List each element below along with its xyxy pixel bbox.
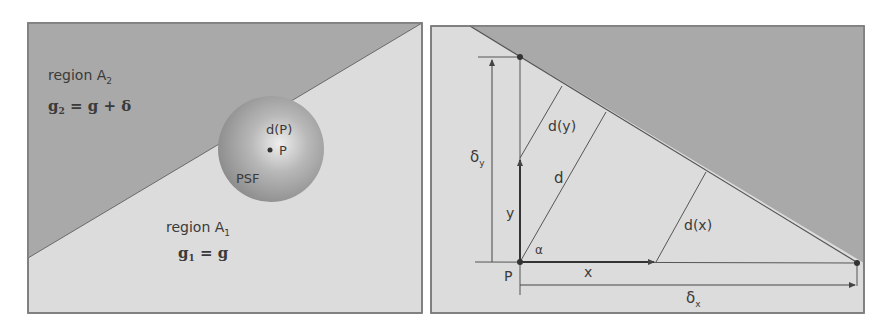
point-p-dot [268,148,273,153]
region-a1-equation: g1 = g [178,244,229,263]
d-p-label: d(P) [266,122,292,137]
d-y-label: d(y) [548,118,576,134]
point-p [517,259,523,265]
diagram-canvas: region A2 g2 = g + δ d(P) P PSF region A… [0,0,888,329]
psf-label: PSF [236,171,260,186]
alpha-label: α [535,243,543,257]
d-label: d [554,169,564,187]
right-panel: δy d(y) d y α d(x) x P δx [431,26,864,313]
x-label: x [584,264,592,280]
p-label: P [504,268,512,284]
y-label: y [506,205,514,221]
point-p-label: P [279,143,287,158]
right-intersection-point [854,260,860,266]
top-intersection-point [517,54,523,60]
d-x-label: d(x) [684,217,712,233]
left-panel: region A2 g2 = g + δ d(P) P PSF region A… [28,23,422,313]
